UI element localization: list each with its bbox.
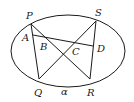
label-alpha: α — [61, 86, 68, 97]
ellipse-alpha — [11, 15, 125, 87]
segment-SQ — [39, 21, 96, 79]
label-S: S — [95, 7, 102, 18]
geometry-diagram: P S A B C D Q α R — [0, 0, 134, 102]
label-D: D — [96, 43, 105, 54]
label-B: B — [39, 41, 47, 52]
segment-PQ — [31, 24, 39, 79]
label-P: P — [25, 10, 33, 21]
label-C: C — [72, 46, 80, 57]
label-R: R — [86, 87, 95, 98]
label-A: A — [21, 32, 29, 43]
label-Q: Q — [34, 87, 42, 98]
segment-SR — [90, 21, 96, 79]
